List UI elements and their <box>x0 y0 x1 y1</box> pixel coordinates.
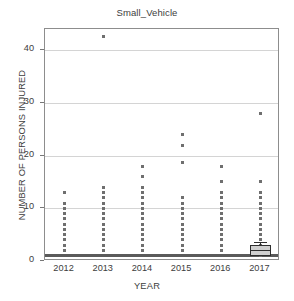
data-point <box>63 207 66 210</box>
data-point <box>259 196 262 199</box>
data-point <box>259 223 262 226</box>
data-point <box>102 249 105 252</box>
data-point <box>102 191 105 194</box>
data-point <box>220 228 223 231</box>
data-point <box>141 186 144 189</box>
gridline <box>45 208 278 209</box>
data-point <box>259 180 262 183</box>
y-axis-title: NUMBER OF PERSONS INJURED <box>17 50 27 240</box>
data-point <box>220 212 223 215</box>
data-point <box>141 244 144 247</box>
y-tick-label: 30 <box>6 96 34 106</box>
x-tick-label: 2012 <box>44 263 84 273</box>
data-point <box>63 217 66 220</box>
chart-figure: Small_Vehicle NUMBER OF PERSONS INJURED … <box>0 0 294 301</box>
data-point <box>220 233 223 236</box>
data-point <box>63 191 66 194</box>
data-point <box>141 165 144 168</box>
y-tick-label: 40 <box>6 43 34 53</box>
y-tick-mark <box>40 49 44 50</box>
data-point <box>141 212 144 215</box>
data-point <box>63 244 66 247</box>
data-point <box>181 238 184 241</box>
data-point <box>63 228 66 231</box>
boxplot-whisker-cap <box>254 242 268 243</box>
data-point <box>102 212 105 215</box>
data-point <box>102 186 105 189</box>
y-tick-label: 20 <box>6 149 34 159</box>
data-point <box>181 217 184 220</box>
data-point <box>63 238 66 241</box>
data-point <box>220 223 223 226</box>
data-point <box>259 238 262 241</box>
data-point <box>181 207 184 210</box>
data-point <box>102 233 105 236</box>
data-point <box>102 223 105 226</box>
data-point <box>63 233 66 236</box>
x-tick-label: 2013 <box>83 263 123 273</box>
data-point <box>141 223 144 226</box>
plot-area <box>44 28 279 260</box>
data-point <box>220 238 223 241</box>
data-point <box>102 207 105 210</box>
plot-inner <box>45 29 278 259</box>
data-point <box>259 228 262 231</box>
data-point <box>141 207 144 210</box>
data-point <box>181 144 184 147</box>
y-tick-mark <box>40 155 44 156</box>
data-point <box>220 202 223 205</box>
y-tick-mark <box>40 102 44 103</box>
data-point <box>102 196 105 199</box>
data-point <box>220 180 223 183</box>
data-point <box>220 191 223 194</box>
data-point <box>181 233 184 236</box>
y-tick-label: 10 <box>6 201 34 211</box>
data-point <box>259 233 262 236</box>
y-tick-mark <box>40 260 44 261</box>
data-point <box>181 212 184 215</box>
data-point <box>220 249 223 252</box>
data-point <box>102 217 105 220</box>
gridline <box>45 103 278 104</box>
data-point <box>259 217 262 220</box>
data-point <box>259 112 262 115</box>
data-point <box>259 207 262 210</box>
data-point <box>181 244 184 247</box>
data-point <box>102 238 105 241</box>
gridline <box>45 156 278 157</box>
data-point <box>220 165 223 168</box>
data-point <box>181 228 184 231</box>
data-point <box>63 212 66 215</box>
y-tick-label: 0 <box>6 254 34 264</box>
data-point <box>141 196 144 199</box>
data-point <box>220 217 223 220</box>
data-point <box>220 196 223 199</box>
data-point <box>63 202 66 205</box>
data-point <box>63 249 66 252</box>
data-point <box>259 202 262 205</box>
data-point <box>220 207 223 210</box>
x-tick-label: 2014 <box>122 263 162 273</box>
data-point <box>141 175 144 178</box>
data-point <box>181 202 184 205</box>
data-point <box>181 249 184 252</box>
data-point <box>141 249 144 252</box>
data-point <box>102 202 105 205</box>
data-point <box>141 191 144 194</box>
data-point <box>141 228 144 231</box>
x-tick-label: 2015 <box>161 263 201 273</box>
data-point <box>141 217 144 220</box>
data-point <box>220 244 223 247</box>
data-point <box>181 196 184 199</box>
x-tick-label: 2017 <box>239 263 279 273</box>
x-axis-title: YEAR <box>0 281 294 291</box>
y-tick-mark <box>40 207 44 208</box>
boxplot-median <box>250 250 272 251</box>
data-point <box>259 212 262 215</box>
data-point <box>181 133 184 136</box>
chart-title: Small_Vehicle <box>0 7 294 18</box>
data-point <box>141 238 144 241</box>
x-tick-label: 2016 <box>200 263 240 273</box>
data-point <box>141 202 144 205</box>
data-point <box>102 35 105 38</box>
